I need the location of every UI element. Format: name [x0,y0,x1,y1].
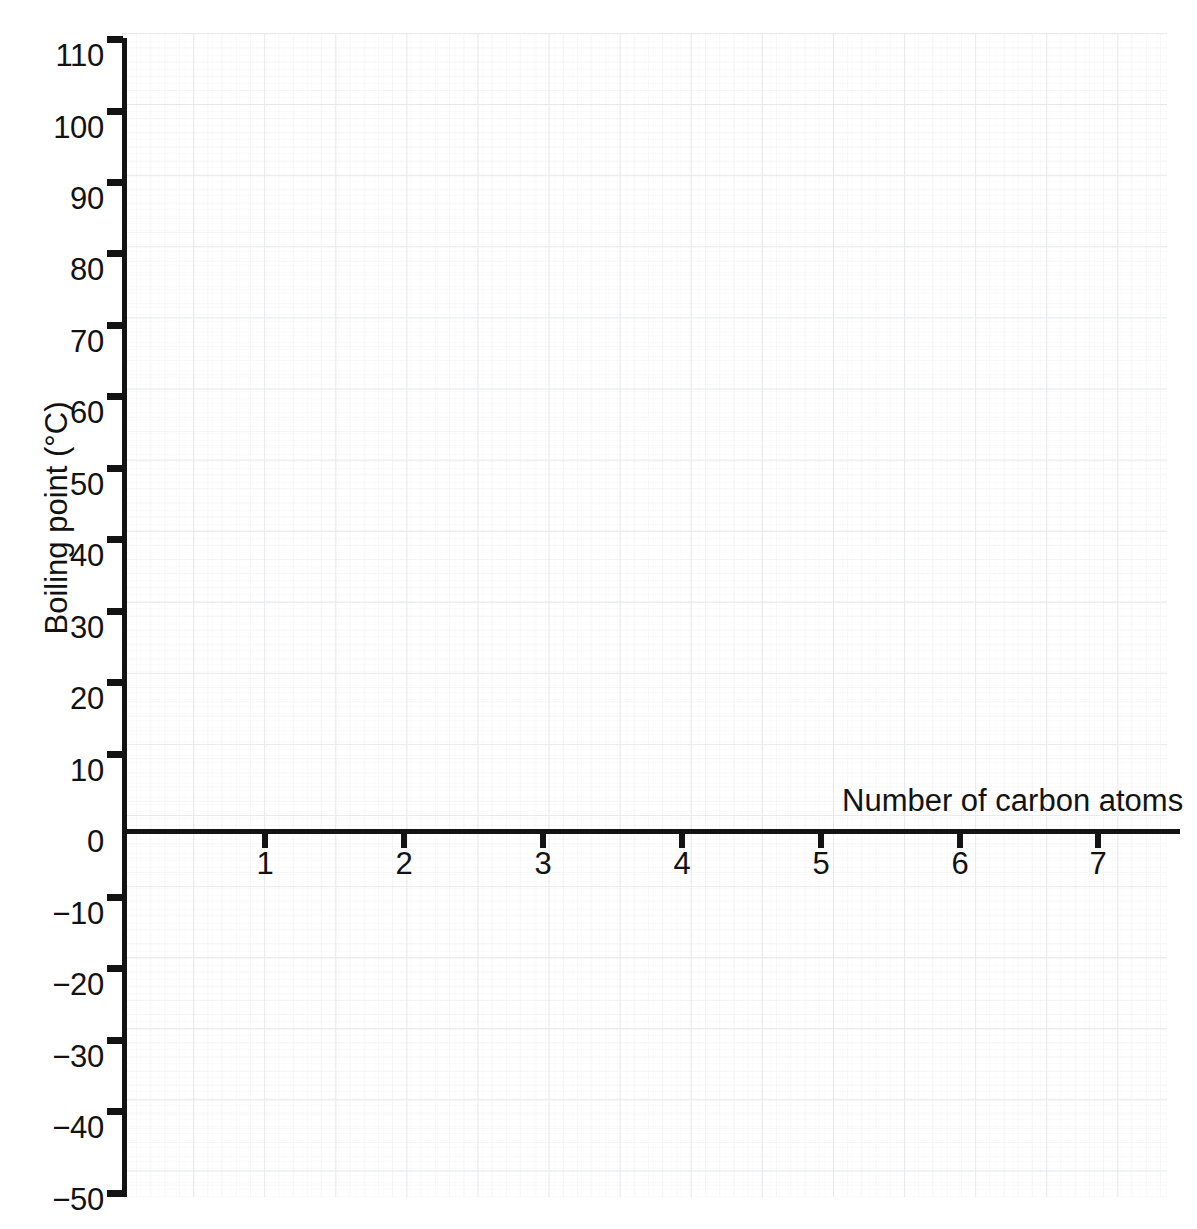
x-tick-label: 3 [513,848,573,879]
x-axis-line [122,829,1180,834]
y-tick-label: 100 [4,112,104,143]
y-tick-mark [107,679,123,686]
x-tick-label: 5 [791,848,851,879]
x-tick-label: 1 [235,848,295,879]
y-tick-mark [107,1108,123,1115]
y-tick-mark [107,465,123,472]
y-tick-label: −30 [4,1041,104,1072]
chart-page: 110 100 90 80 70 60 50 40 30 20 10 0 −10… [0,0,1197,1229]
y-tick-label: 110 [4,40,104,71]
y-tick-mark [107,1190,123,1197]
x-tick-label: 2 [374,848,434,879]
y-tick-mark [107,250,123,257]
y-axis-title: Boiling point (°C) [39,378,75,658]
x-tick-label: 7 [1068,848,1128,879]
y-tick-mark [107,608,123,615]
y-tick-mark [107,894,123,901]
graph-paper-grid [122,33,1167,1197]
x-axis-title: Number of carbon atoms [842,783,1183,819]
y-tick-mark [107,108,123,115]
y-tick-label: 80 [4,254,104,285]
y-tick-mark [107,36,123,43]
y-tick-label: −40 [4,1112,104,1143]
y-tick-label: 10 [4,755,104,786]
y-tick-mark [107,1037,123,1044]
y-tick-mark [107,965,123,972]
y-tick-label: −50 [4,1184,104,1215]
y-tick-label: 0 [4,826,104,857]
y-tick-mark [107,179,123,186]
x-tick-label: 4 [652,848,712,879]
y-tick-label: −20 [4,969,104,1000]
y-tick-mark [107,393,123,400]
y-tick-label: 90 [4,183,104,214]
y-tick-mark [107,536,123,543]
y-tick-mark [107,322,123,329]
x-tick-label: 6 [930,848,990,879]
y-axis-line [122,38,127,1197]
y-tick-label: −10 [4,898,104,929]
y-tick-label: 20 [4,683,104,714]
y-tick-label: 70 [4,326,104,357]
y-tick-mark [107,751,123,758]
